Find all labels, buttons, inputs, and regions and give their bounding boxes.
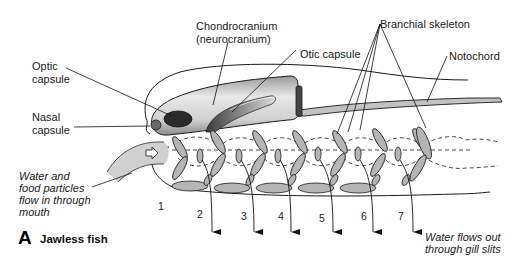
gill-slit-number-5: 5 (319, 212, 325, 224)
optic-capsule-label-line2: capsule (32, 73, 70, 86)
water-out-label: Water flows out through gill slits (425, 231, 501, 255)
water-out-label-line2: through gill slits (425, 243, 501, 255)
chondrocranium (151, 76, 302, 135)
mouth-intake-tube (107, 142, 169, 182)
gill-slit-number-2: 2 (197, 208, 203, 220)
nasal-capsule-label-line1: Nasal (32, 111, 70, 124)
chondrocranium-label: Chondrocranium (neurocranium) (196, 20, 277, 46)
nasal-capsule-label: Nasal capsule (32, 111, 70, 137)
water-out-label-line1: Water flows out (425, 231, 501, 243)
water-in-label: Water and food particles flow in through… (19, 170, 91, 218)
gill-slit-number-3: 3 (241, 210, 247, 222)
branchial-skeleton-label: Branchial skeleton (380, 18, 470, 31)
water-in-label-line3: flow in through (19, 194, 91, 206)
gill-slit-number-1: 1 (158, 200, 164, 212)
water-in-label-line2: food particles (19, 182, 91, 194)
notochord (294, 98, 502, 117)
chondrocranium-label-line2: (neurocranium) (196, 33, 277, 46)
panel-letter: A (18, 227, 32, 249)
nasal-capsule (151, 120, 161, 130)
otic-capsule-label: Otic capsule (300, 48, 361, 61)
optic-capsule-label-line1: Optic (32, 60, 70, 73)
chondrocranium-label-line1: Chondrocranium (196, 20, 277, 33)
water-in-label-line1: Water and (19, 170, 91, 182)
gill-slit-number-6: 6 (361, 210, 367, 222)
panel-title: Jawless fish (40, 233, 108, 245)
optic-capsule-label: Optic capsule (32, 60, 70, 86)
water-in-label-line4: mouth (19, 206, 91, 218)
optic-capsule (164, 111, 192, 127)
gill-slit-number-4: 4 (278, 210, 284, 222)
gill-slit-number-7: 7 (398, 210, 404, 222)
nasal-capsule-label-line2: capsule (32, 124, 70, 137)
notochord-label: Notochord (449, 50, 500, 63)
